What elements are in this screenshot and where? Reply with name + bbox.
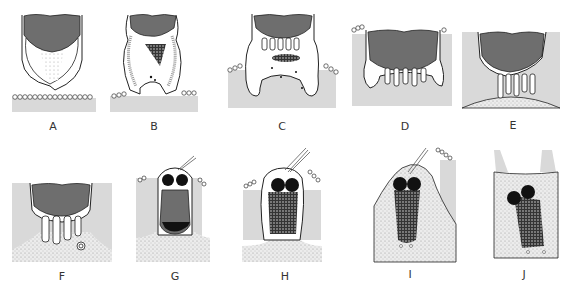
panel-h-illustration	[242, 148, 322, 262]
panel-e-illustration	[462, 32, 560, 108]
panel-label-c: C	[278, 120, 286, 133]
panel-f-illustration	[12, 183, 112, 262]
panel-label-g: G	[171, 270, 180, 283]
panel-label-d: D	[401, 120, 409, 133]
panel-j-illustration	[494, 150, 558, 258]
panel-label-e: E	[510, 119, 517, 132]
panel-label-b: B	[150, 120, 158, 133]
panel-label-i: I	[408, 268, 411, 281]
panel-d-illustration	[352, 25, 452, 106]
panel-a-illustration	[12, 15, 96, 113]
figure-canvas	[0, 0, 568, 290]
panel-i-illustration	[374, 148, 456, 262]
panel-b-illustration	[110, 15, 198, 113]
panel-g-illustration	[136, 156, 210, 262]
panel-label-f: F	[59, 270, 65, 283]
panel-c-illustration	[228, 14, 338, 108]
panel-label-h: H	[281, 270, 289, 283]
panel-label-a: A	[49, 120, 57, 133]
panel-label-j: J	[522, 268, 525, 281]
